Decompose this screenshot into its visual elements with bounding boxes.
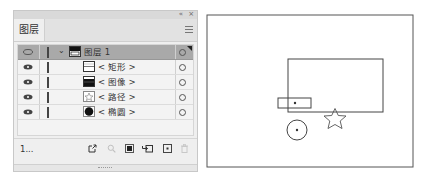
image-center-point: [294, 102, 296, 104]
ellipse-thumbnail: [83, 106, 95, 117]
sublayer-name[interactable]: < 椭圆 >: [98, 106, 136, 118]
new-sublayer-icon[interactable]: [142, 144, 153, 153]
sublayer-row[interactable]: < 图像 >: [18, 75, 193, 90]
layers-list: ⌄ 图层 1 < 矩形 >: [17, 44, 194, 136]
close-icon[interactable]: ×: [188, 10, 194, 19]
layer-count: 1...: [20, 144, 34, 154]
sublayer-name[interactable]: < 矩形 >: [98, 61, 136, 73]
layer-thumbnail: [69, 46, 81, 57]
sublayer-row[interactable]: < 路径 >: [18, 90, 193, 105]
layer-color-bar: [47, 62, 49, 73]
layer-color-bar: [47, 47, 49, 58]
tab-bar: 图层: [14, 19, 197, 42]
visibility-eye-icon[interactable]: [23, 109, 33, 115]
new-layer-icon[interactable]: [163, 144, 172, 153]
visibility-eye-icon[interactable]: [23, 94, 33, 100]
artboard-canvas[interactable]: [206, 14, 414, 168]
layer-row[interactable]: ⌄ 图层 1: [18, 45, 193, 60]
panel-resize-handle[interactable]: [14, 164, 197, 171]
layer-color-bar: [47, 92, 49, 103]
chevron-down-icon[interactable]: ⌄: [58, 46, 65, 55]
sublayer-row[interactable]: < 椭圆 >: [18, 105, 193, 120]
target-icon[interactable]: [179, 109, 186, 116]
layer-color-bar: [47, 77, 49, 88]
sublayer-name[interactable]: < 路径 >: [98, 91, 136, 103]
target-icon[interactable]: [179, 79, 186, 86]
layer-color-bar: [47, 107, 49, 118]
target-icon[interactable]: [179, 64, 186, 71]
artboard-border: [207, 15, 413, 167]
visibility-eye-icon[interactable]: [23, 79, 33, 85]
image-thumbnail: [83, 76, 95, 87]
locate-object-icon[interactable]: [107, 144, 116, 153]
tab-layers[interactable]: 图层: [14, 19, 45, 41]
rectangle-thumbnail: [83, 61, 95, 72]
visibility-eye-icon[interactable]: [23, 64, 33, 70]
path-thumbnail: [83, 91, 95, 102]
panel-menu-icon[interactable]: [185, 26, 193, 33]
clipping-mask-icon[interactable]: [125, 144, 134, 153]
layer-name[interactable]: 图层 1: [84, 46, 110, 58]
collapse-icon[interactable]: «: [179, 10, 183, 19]
ellipse-center-point: [296, 129, 298, 131]
sublayer-name[interactable]: < 图像 >: [98, 76, 136, 88]
sublayer-row[interactable]: < 矩形 >: [18, 60, 193, 75]
export-icon[interactable]: [88, 144, 97, 153]
selection-indicator: [187, 46, 192, 51]
layers-panel: « × 图层 ⌄ 图层 1 < 矩形 >: [13, 10, 198, 172]
target-icon[interactable]: [179, 94, 186, 101]
delete-icon[interactable]: [180, 144, 189, 153]
target-icon[interactable]: [179, 49, 186, 56]
panel-footer: 1...: [14, 138, 197, 161]
visibility-eye-icon[interactable]: [23, 49, 33, 55]
